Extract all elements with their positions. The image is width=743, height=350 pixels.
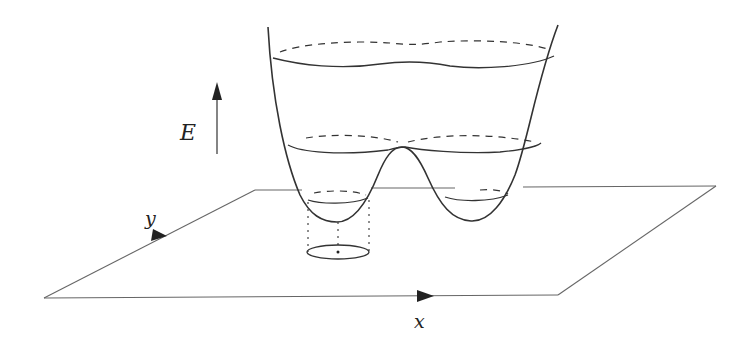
x-axis-arrow-icon <box>417 290 434 302</box>
energy-level-right-well-front <box>445 195 508 201</box>
energy-axis <box>212 82 222 154</box>
y-axis-label: y <box>144 207 156 229</box>
energy-arrow-icon <box>212 82 222 100</box>
energy-level-saddle-back <box>306 135 535 142</box>
xy-plane <box>44 186 716 298</box>
x-axis-label: x <box>414 310 425 332</box>
energy-level-left-well-back <box>314 191 366 195</box>
energy-axis-label: E <box>179 120 196 145</box>
double-well-potential-diagram: E y x <box>0 0 743 350</box>
energy-level-high-front <box>273 56 554 68</box>
energy-level-left-well-front <box>308 198 368 203</box>
energy-level-saddle-front <box>288 143 541 153</box>
energy-level-high-back <box>280 41 550 52</box>
energy-level-right-well-back <box>480 190 508 194</box>
potential-curve <box>268 25 558 222</box>
projected-minimum-point <box>337 251 340 254</box>
